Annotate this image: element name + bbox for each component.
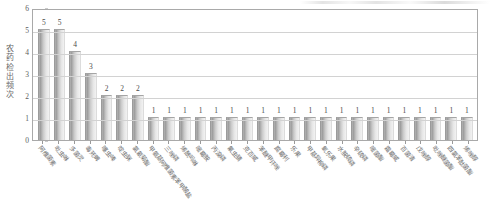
y-axis-tick-label: 2 — [25, 93, 29, 101]
bar[interactable]: 2 — [101, 95, 113, 140]
bar-value-label: 1 — [324, 107, 328, 115]
bar-value-label: 1 — [293, 107, 297, 115]
top-edge-artifact — [300, 1, 490, 4]
x-label-slot: 烯酰吗啉 — [177, 144, 193, 206]
y-axis-title: 农药检出频次 — [3, 44, 16, 100]
x-label-slot: 丙溴磷 — [208, 144, 224, 206]
x-label-slot: 毒死蜱 — [82, 144, 98, 206]
bar-value-label: 1 — [465, 107, 469, 115]
bar-value-label: 4 — [73, 41, 77, 49]
y-axis-tick-labels: 6543210 — [16, 9, 29, 141]
x-label-slot: 四氯苯酞菌酯 — [445, 144, 461, 206]
x-label-slot: 三唑磷 — [161, 144, 177, 206]
y-axis-tick-label: 5 — [25, 27, 29, 35]
bar[interactable]: 5 — [54, 29, 66, 140]
x-label-slot: 腐霉利 — [271, 144, 287, 206]
bar-value-label: 5 — [42, 19, 46, 27]
x-label-slot: 百菌清 — [397, 144, 413, 206]
x-label-slot: 吡唑醚菌酯 — [429, 144, 445, 206]
x-label-slot: 嘧霉胺 — [193, 144, 209, 206]
bar-value-label: 1 — [355, 107, 359, 115]
y-axis-tick-label: 0 — [25, 137, 29, 145]
x-label-slot: 辛硫磷 — [350, 144, 366, 206]
x-label-slot: 水胺硫磷 — [334, 144, 350, 206]
x-axis-tick-label: 乐果 — [289, 145, 302, 158]
bar[interactable]: 2 — [116, 95, 128, 140]
bar[interactable]: 3 — [85, 73, 97, 140]
x-label-slot: 噻虫嗪 — [98, 144, 114, 206]
bar-value-label: 1 — [387, 107, 391, 115]
bar-value-label: 1 — [199, 107, 203, 115]
x-label-slot: 阿维菌素 — [35, 144, 51, 206]
y-axis-tick-label: 1 — [25, 115, 29, 123]
x-label-slot: 甲基异柳磷 — [303, 144, 319, 206]
bar-value-label: 1 — [167, 107, 171, 115]
plot-area: 5543222111111111111111111111 — [32, 9, 478, 141]
x-label-slot: 嘧菌酯 — [366, 144, 382, 206]
bar[interactable]: 4 — [69, 51, 81, 140]
bar-value-label: 1 — [402, 107, 406, 115]
x-label-slot: 霜霉威 — [382, 144, 398, 206]
bar-value-label: 2 — [136, 85, 140, 93]
gridline — [33, 120, 477, 121]
x-label-slot: 氟虫腈 — [224, 144, 240, 206]
bar-chart: 农药检出频次 6543210 5543222111111111111111111… — [0, 0, 496, 208]
y-axis-tick-label: 3 — [25, 71, 29, 79]
bar-value-label: 1 — [214, 107, 218, 115]
x-label-slot: 苯醚甲环唑 — [256, 144, 272, 206]
x-label-slot: 氯氰菊酯 — [130, 144, 146, 206]
gridline — [33, 54, 477, 55]
gridline — [33, 32, 477, 33]
bar-value-label: 1 — [230, 107, 234, 115]
bar-value-label: 1 — [152, 107, 156, 115]
bar-value-label: 3 — [89, 63, 93, 71]
bar[interactable]: 5 — [38, 29, 50, 140]
bar-value-label: 1 — [449, 107, 453, 115]
x-label-slot: 多菌灵 — [67, 144, 83, 206]
x-axis-tick-labels: 阿维菌素吡虫啉多菌灵毒死蜱噻虫嗪啶虫脒氯氰菊酯甲氨基阿维菌素苯甲酸盐三唑磷烯酰吗… — [32, 144, 478, 206]
bar-value-label: 1 — [340, 107, 344, 115]
bar-value-label: 1 — [371, 107, 375, 115]
y-axis-tick-label: 6 — [25, 5, 29, 13]
bar-value-label: 1 — [277, 107, 281, 115]
gridline — [33, 98, 477, 99]
bar-value-label: 2 — [105, 85, 109, 93]
bar[interactable]: 2 — [132, 95, 144, 140]
y-axis-tick-label: 4 — [25, 49, 29, 57]
x-axis-tick-label: 烯唑醇 — [462, 145, 478, 163]
bar-value-label: 1 — [261, 107, 265, 115]
x-label-slot: 啶虫脒 — [114, 144, 130, 206]
bar-value-label: 2 — [120, 85, 124, 93]
bar-value-label: 1 — [246, 107, 250, 115]
x-label-slot: 烯唑醇 — [460, 144, 476, 206]
bar-value-label: 5 — [58, 19, 62, 27]
x-label-slot: 克百威 — [240, 144, 256, 206]
x-label-slot: 吡虫啉 — [51, 144, 67, 206]
x-label-slot: 氧乐果 — [319, 144, 335, 206]
x-label-slot: 乐果 — [287, 144, 303, 206]
bar-value-label: 1 — [434, 107, 438, 115]
x-label-slot: 甲氨基阿维菌素苯甲酸盐 — [145, 144, 161, 206]
bar-value-label: 1 — [308, 107, 312, 115]
gridline — [33, 76, 477, 77]
bar-value-label: 1 — [183, 107, 187, 115]
bar-value-label: 1 — [418, 107, 422, 115]
x-label-slot: 戊唑醇 — [413, 144, 429, 206]
